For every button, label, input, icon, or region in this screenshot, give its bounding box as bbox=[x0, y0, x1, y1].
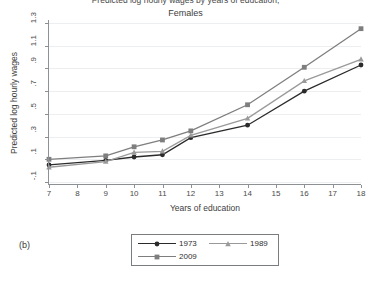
legend-key bbox=[138, 239, 176, 248]
data-point-marker bbox=[103, 153, 108, 158]
series-2009 bbox=[47, 26, 364, 161]
y-tick-mark bbox=[45, 159, 48, 160]
y-axis-title-text: Predicted log hourly wages bbox=[9, 51, 19, 153]
series-layer bbox=[49, 23, 361, 182]
legend-key bbox=[209, 239, 247, 248]
x-tick-mark bbox=[276, 185, 277, 188]
legend-label: 1973 bbox=[179, 239, 201, 248]
legend-label: 2009 bbox=[179, 252, 201, 261]
x-tick-mark bbox=[361, 185, 362, 188]
grid-line bbox=[49, 182, 361, 183]
series-line bbox=[49, 29, 361, 160]
x-tick-label: 10 bbox=[130, 189, 139, 198]
y-axis-title: Predicted log hourly wages bbox=[8, 23, 20, 182]
data-point-marker bbox=[245, 115, 251, 120]
x-tick-label: 13 bbox=[215, 189, 224, 198]
x-tick-mark bbox=[304, 185, 305, 188]
legend-label: 1989 bbox=[250, 239, 272, 248]
y-tick-label: 1.1 bbox=[29, 35, 38, 46]
x-tick-mark bbox=[333, 185, 334, 188]
series-1989 bbox=[46, 56, 364, 169]
x-tick-label: 7 bbox=[47, 189, 51, 198]
data-point-marker bbox=[160, 138, 165, 143]
data-point-marker bbox=[245, 102, 250, 107]
y-tick-label: -.1 bbox=[29, 171, 38, 180]
data-point-marker bbox=[359, 63, 364, 68]
chart-legend: 197319892009 bbox=[131, 234, 279, 266]
y-tick-label: .9 bbox=[29, 57, 38, 64]
x-tick-label: 11 bbox=[158, 189, 166, 198]
y-tick-mark bbox=[45, 114, 48, 115]
data-point-marker bbox=[245, 123, 250, 128]
y-tick-mark bbox=[45, 46, 48, 47]
x-tick-mark bbox=[106, 185, 107, 188]
chart-subtitle: Females bbox=[0, 8, 371, 18]
x-tick-mark bbox=[77, 185, 78, 188]
series-1973 bbox=[47, 63, 364, 168]
x-tick-mark bbox=[134, 185, 135, 188]
x-tick-label: 9 bbox=[103, 189, 107, 198]
legend-marker-circle-icon bbox=[152, 239, 162, 249]
y-tick-mark bbox=[45, 137, 48, 138]
y-axis-line bbox=[48, 20, 49, 185]
data-point-marker bbox=[359, 26, 364, 31]
data-point-marker bbox=[302, 89, 307, 94]
x-axis-title: Years of education bbox=[49, 203, 361, 213]
legend-marker-triangle-icon bbox=[223, 239, 233, 249]
series-line bbox=[49, 65, 361, 165]
y-tick-label: .5 bbox=[29, 103, 38, 110]
x-tick-label: 18 bbox=[357, 189, 366, 198]
y-tick-label: .7 bbox=[29, 80, 38, 87]
data-point-marker bbox=[155, 254, 160, 259]
legend-item-2009[interactable]: 2009 bbox=[138, 252, 201, 261]
data-point-marker bbox=[188, 128, 193, 133]
data-point-marker bbox=[225, 241, 231, 246]
data-point-marker bbox=[155, 241, 160, 246]
legend-item-1989[interactable]: 1989 bbox=[209, 239, 272, 248]
chart-title: Predicted log hourly wages by years of e… bbox=[0, 0, 371, 5]
y-tick-mark bbox=[45, 91, 48, 92]
x-tick-mark bbox=[248, 185, 249, 188]
x-tick-mark bbox=[49, 185, 50, 188]
x-tick-mark bbox=[163, 185, 164, 188]
y-tick-mark bbox=[45, 68, 48, 69]
chart-figure: Predicted log hourly wages by years of e… bbox=[0, 0, 371, 281]
data-point-marker bbox=[132, 155, 137, 160]
data-point-marker bbox=[302, 65, 307, 70]
y-tick-mark bbox=[45, 23, 48, 24]
x-tick-label: 17 bbox=[328, 189, 337, 198]
series-line bbox=[49, 59, 361, 167]
y-tick-label: 1.3 bbox=[29, 12, 38, 23]
data-point-marker bbox=[358, 56, 364, 61]
x-tick-label: 15 bbox=[271, 189, 280, 198]
legend-item-1973[interactable]: 1973 bbox=[138, 239, 201, 248]
y-tick-label: .1 bbox=[29, 148, 38, 155]
y-tick-mark bbox=[45, 182, 48, 183]
x-tick-label: 16 bbox=[300, 189, 309, 198]
x-tick-mark bbox=[219, 185, 220, 188]
legend-marker-square-icon bbox=[152, 252, 162, 262]
panel-label: (b) bbox=[19, 240, 30, 250]
legend-key bbox=[138, 252, 176, 261]
x-tick-mark bbox=[191, 185, 192, 188]
x-tick-label: 12 bbox=[186, 189, 195, 198]
x-axis-line bbox=[48, 184, 361, 185]
y-tick-label: .3 bbox=[29, 126, 38, 133]
x-tick-label: 14 bbox=[243, 189, 252, 198]
x-tick-label: 8 bbox=[75, 189, 79, 198]
data-point-marker bbox=[132, 144, 137, 149]
